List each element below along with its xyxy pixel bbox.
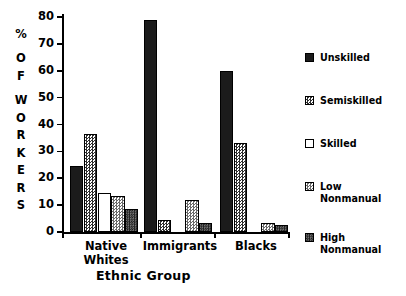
x-axis-tick [214,232,216,238]
y-axis-title-char: K [10,145,32,162]
y-axis-tick [57,151,63,153]
y-axis-tick-label: 60 [38,65,54,77]
legend-item-label: High Nonmanual [320,232,381,255]
legend-swatch-icon [305,96,314,105]
spacer [10,43,32,50]
legend-swatch-icon [305,233,314,242]
plot-area: 01020304050607080 Native WhitesImmigrant… [62,17,286,232]
bar [199,223,212,232]
bar [144,20,157,232]
y-axis-title-char: % [10,26,32,43]
x-axis-tick [62,232,64,238]
y-axis-tick [57,16,63,18]
bar [70,166,83,232]
bar [158,220,171,232]
y-axis-title-char: R [10,127,32,144]
y-axis-title-char: E [10,162,32,179]
bar [275,225,288,232]
x-axis-title: Ethnic Group [96,268,191,283]
bar [125,209,138,232]
legend-item[interactable]: Semiskilled [305,95,382,107]
y-axis-title-char: O [10,110,32,127]
y-axis-tick-label: 70 [38,38,54,50]
x-axis-line [62,232,288,234]
legend-swatch-icon [305,182,314,191]
chart-figure: % O F W O R K E R S 01020304050607080 Na… [0,0,406,296]
y-axis-tick-label: 30 [38,146,54,158]
legend-item[interactable]: High Nonmanual [305,232,381,255]
legend-item-label: Semiskilled [320,95,382,107]
y-axis-tick-label: 40 [38,119,54,131]
legend-item[interactable]: Low Nonmanual [305,181,381,204]
bar [261,223,274,232]
bar [111,196,124,232]
y-axis-tick-label: 50 [38,92,54,104]
y-axis-tick [57,97,63,99]
bar-group [144,17,216,232]
y-axis-title-char: O [10,50,32,67]
legend-item-label: Low Nonmanual [320,181,381,204]
x-axis-tick [288,232,290,238]
x-axis-category-label: Blacks [208,239,304,253]
y-axis-tick [57,204,63,206]
y-axis-tick [57,177,63,179]
legend-item[interactable]: Unskilled [305,52,370,64]
y-axis-tick-label: 0 [46,226,54,238]
legend-item[interactable]: Skilled [305,138,357,150]
y-axis-title-char: F [10,68,32,85]
y-axis-tick-label: 10 [38,199,54,211]
legend-swatch-icon [305,139,314,148]
y-axis-title-char: W [10,92,32,109]
legend-swatch-icon [305,53,314,62]
y-axis-tick-label: 20 [38,173,54,185]
legend-item-label: Skilled [320,138,357,150]
bar [98,193,111,232]
legend-item-label: Unskilled [320,52,370,64]
bar [185,200,198,232]
y-axis-tick [57,70,63,72]
y-axis-title-char: S [10,197,32,214]
y-axis-tick [57,124,63,126]
bar [234,143,247,232]
bar [84,134,97,232]
y-axis-tick [57,43,63,45]
y-axis-title-char: R [10,180,32,197]
y-axis-tick-label: 80 [38,11,54,23]
bar [220,71,233,232]
spacer [10,85,32,92]
bar-group [220,17,292,232]
bar-group [70,17,142,232]
x-axis-tick [140,232,142,238]
y-axis-title: % O F W O R K E R S [10,26,32,215]
